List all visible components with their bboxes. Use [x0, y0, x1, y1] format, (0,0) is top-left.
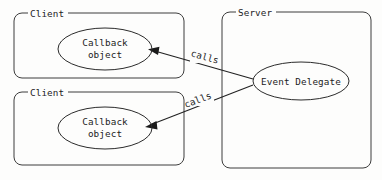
callback-top-label-line1: Callback: [82, 37, 128, 48]
callback-top-label-line2: object: [88, 49, 122, 60]
edge-calls-top: calls: [148, 47, 253, 79]
client-bottom-label: Client: [30, 87, 64, 98]
diagram-canvas: Client Client Server calls calls: [0, 0, 382, 180]
callback-bottom-label-line1: Callback: [82, 116, 128, 127]
callback-bottom-label-line2: object: [88, 128, 122, 139]
node-event-delegate: Event Delegate: [253, 62, 349, 100]
calls-top-arrowhead: [148, 47, 160, 55]
node-callback-top: Callback object: [58, 28, 152, 70]
node-callback-bottom: Callback object: [58, 107, 152, 149]
diagram-svg: Client Client Server calls calls: [0, 0, 382, 180]
client-top-label: Client: [30, 8, 64, 19]
server-border: [222, 12, 371, 168]
container-server: Server: [222, 7, 371, 168]
server-label: Server: [238, 7, 272, 18]
event-delegate-label: Event Delegate: [261, 76, 341, 87]
